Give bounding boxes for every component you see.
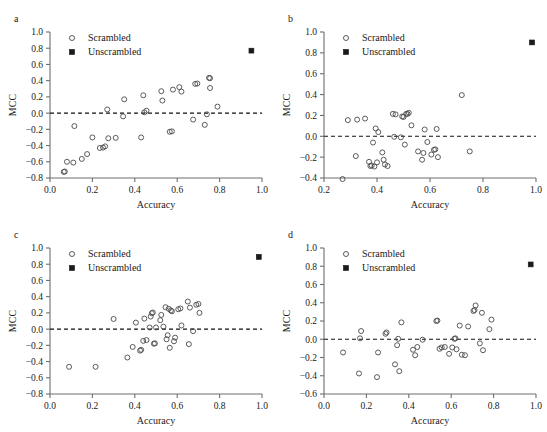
y-tick-label: 0.2 <box>31 92 43 102</box>
x-tick-label: 0.0 <box>318 401 330 411</box>
x-tick-label: 0.2 <box>86 185 98 195</box>
x-tick-label: 1.0 <box>256 185 268 195</box>
panel-b: b −0.4−0.20.00.20.40.60.81.00.20.40.60.8… <box>274 0 547 216</box>
data-point-scrambled <box>133 320 138 325</box>
data-point-scrambled <box>141 93 146 98</box>
legend-label-scrambled: Scrambled <box>88 32 131 43</box>
data-point-scrambled <box>462 353 467 358</box>
x-tick-label: 1.0 <box>530 401 542 411</box>
data-point-scrambled <box>376 130 381 135</box>
x-tick-label: 0.0 <box>44 401 56 411</box>
x-tick-label: 0.0 <box>44 185 56 195</box>
data-point-scrambled <box>125 355 130 360</box>
data-point-scrambled <box>356 371 361 376</box>
legend-marker-scrambled <box>70 252 75 257</box>
data-point-scrambled <box>167 345 172 350</box>
data-point-scrambled <box>85 152 90 157</box>
x-tick-label: 0.2 <box>360 401 372 411</box>
data-point-scrambled <box>144 338 149 343</box>
x-tick-label: 1.0 <box>256 401 268 411</box>
legend-label-unscrambled: Unscrambled <box>362 262 415 273</box>
y-tick-label: 1.0 <box>305 243 317 253</box>
y-tick-label: −0.6 <box>26 373 43 383</box>
y-tick-label: 0.6 <box>305 280 317 290</box>
data-point-scrambled <box>179 323 184 328</box>
data-point-scrambled <box>208 85 213 90</box>
x-tick-label: 0.4 <box>129 185 141 195</box>
y-tick-label: −0.2 <box>300 353 317 363</box>
y-axis-title: MCC <box>7 310 18 333</box>
data-point-scrambled <box>67 364 72 369</box>
data-point-scrambled <box>481 348 486 353</box>
data-point-scrambled <box>420 157 425 162</box>
data-point-scrambled <box>345 118 350 123</box>
y-tick-label: 0.0 <box>305 132 317 142</box>
data-point-scrambled <box>363 116 368 121</box>
data-point-scrambled <box>435 155 440 160</box>
y-tick-label: 0.0 <box>305 335 317 345</box>
data-point-scrambled <box>459 93 464 98</box>
data-point-scrambled <box>447 351 452 356</box>
data-point-scrambled <box>467 149 472 154</box>
y-tick-label: 0.0 <box>31 109 43 119</box>
y-axis-title: MCC <box>7 94 18 117</box>
data-point-scrambled <box>142 316 147 321</box>
y-tick-label: 0.8 <box>31 44 43 54</box>
y-tick-label: −0.4 <box>300 371 317 381</box>
legend-label-unscrambled: Unscrambled <box>362 46 415 57</box>
data-point-scrambled <box>398 135 403 140</box>
data-point-scrambled <box>429 152 434 157</box>
y-tick-label: −0.2 <box>300 153 317 163</box>
legend-marker-unscrambled <box>344 266 349 271</box>
data-point-scrambled <box>384 330 389 335</box>
data-point-scrambled <box>409 123 414 128</box>
y-tick-label: −0.6 <box>26 157 43 167</box>
y-tick-label: 0.2 <box>305 316 317 326</box>
y-tick-label: 0.6 <box>31 60 43 70</box>
data-point-scrambled <box>64 159 69 164</box>
data-point-scrambled <box>71 160 76 165</box>
y-tick-label: 0.8 <box>31 260 43 270</box>
x-axis-title: Accuracy <box>411 199 449 210</box>
data-point-scrambled <box>72 124 77 129</box>
data-point-scrambled <box>159 312 164 317</box>
y-tick-label: −0.4 <box>26 141 43 151</box>
data-point-scrambled <box>489 317 494 322</box>
x-axis-title: Accuracy <box>411 415 449 426</box>
data-point-scrambled <box>421 150 426 155</box>
data-point-scrambled <box>79 156 84 161</box>
y-tick-label: 0.6 <box>305 69 317 79</box>
panel-c: c −0.8−0.6−0.4−0.20.00.20.40.60.81.00.00… <box>0 216 273 432</box>
x-tick-label: 1.0 <box>530 185 542 195</box>
data-point-scrambled <box>399 320 404 325</box>
data-point-scrambled <box>393 362 398 367</box>
data-point-scrambled <box>353 154 358 159</box>
data-point-scrambled <box>105 107 110 112</box>
scatter-plot-c: −0.8−0.6−0.4−0.20.00.20.40.60.81.00.00.2… <box>0 216 273 432</box>
data-point-scrambled <box>186 342 191 347</box>
data-point-scrambled <box>359 329 364 334</box>
legend-marker-scrambled <box>70 36 75 41</box>
x-tick-label: 0.4 <box>129 401 141 411</box>
y-tick-label: 1.0 <box>305 27 317 37</box>
y-tick-label: 0.4 <box>305 298 317 308</box>
x-tick-label: 0.4 <box>403 401 415 411</box>
data-point-scrambled <box>422 127 427 132</box>
x-tick-label: 0.6 <box>445 401 457 411</box>
y-tick-label: 1.0 <box>31 243 43 253</box>
y-tick-label: −0.2 <box>26 341 43 351</box>
y-tick-label: −0.8 <box>26 173 43 183</box>
y-tick-label: 1.0 <box>31 27 43 37</box>
x-axis-title: Accuracy <box>137 415 175 426</box>
data-point-scrambled <box>340 177 345 182</box>
data-point-scrambled <box>425 140 430 145</box>
scatter-plot-a: −0.8−0.6−0.4−0.20.00.20.40.60.81.00.00.2… <box>0 0 273 216</box>
legend-label-unscrambled: Unscrambled <box>88 46 141 57</box>
x-tick-label: 0.8 <box>477 185 489 195</box>
data-point-scrambled <box>191 117 196 122</box>
data-point-scrambled <box>139 135 144 140</box>
data-point-scrambled <box>90 135 95 140</box>
data-point-scrambled <box>121 114 126 119</box>
x-tick-label: 0.6 <box>171 185 183 195</box>
data-point-scrambled <box>113 135 118 140</box>
